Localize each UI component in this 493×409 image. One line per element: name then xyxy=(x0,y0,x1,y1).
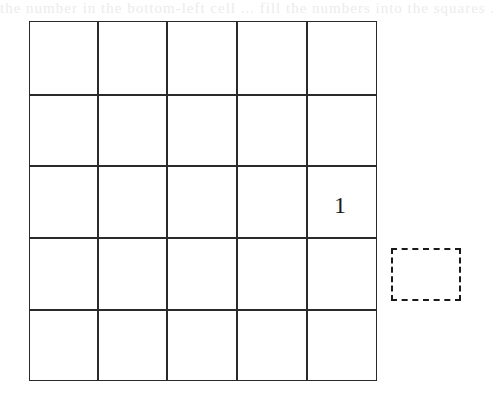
grid-horizontal-line-4 xyxy=(29,309,377,311)
grid-horizontal-line-3 xyxy=(29,237,377,239)
grid-horizontal-line-1 xyxy=(29,94,377,96)
grid-vertical-line-3 xyxy=(236,21,238,381)
bleed-through-text: the number in the bottom-left cell ... f… xyxy=(0,0,493,18)
grid-vertical-line-4 xyxy=(306,21,308,381)
grid-5x5 xyxy=(29,21,377,381)
grid-vertical-line-1 xyxy=(97,21,99,381)
dashed-answer-box xyxy=(391,248,461,301)
grid-horizontal-line-2 xyxy=(29,165,377,167)
grid-vertical-line-2 xyxy=(166,21,168,381)
cell-r3-c5-value: 1 xyxy=(334,193,346,217)
